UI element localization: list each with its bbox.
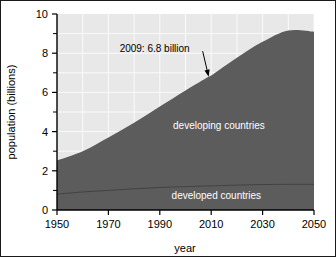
population-growth-chart: developing countries developed countries…: [0, 0, 336, 257]
y-tick-label: 0: [42, 204, 48, 216]
y-tick-label: 6: [42, 86, 48, 98]
annotation-2009-population: 2009: 6.8 billion: [120, 43, 190, 54]
y-tick-label: 2: [42, 165, 48, 177]
x-axis-major-ticks: [57, 210, 314, 215]
y-tick-label: 10: [36, 8, 48, 20]
x-axis-title: year: [174, 242, 196, 254]
x-tick-label: 1990: [148, 218, 172, 230]
series-label-developing-countries: developing countries: [173, 120, 265, 131]
x-tick-label: 1970: [96, 218, 120, 230]
x-tick-label: 2010: [199, 218, 223, 230]
y-tick-label: 8: [42, 47, 48, 59]
series-label-developed-countries: developed countries: [172, 190, 262, 201]
chart-canvas: developing countries developed countries…: [1, 1, 336, 257]
x-tick-label: 2030: [250, 218, 274, 230]
y-axis-title: population (billions): [5, 65, 17, 160]
x-tick-label: 2050: [302, 218, 326, 230]
x-tick-label: 1950: [45, 218, 69, 230]
x-axis-tick-labels: 195019701990201020302050: [45, 218, 326, 230]
y-tick-label: 4: [42, 126, 48, 138]
y-axis-tick-labels: 0246810: [36, 8, 48, 216]
